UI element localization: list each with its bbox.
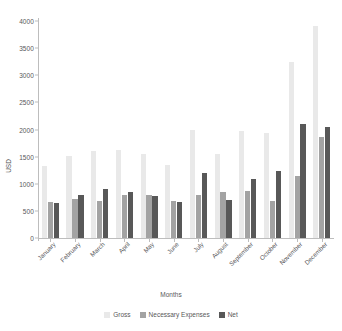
x-tick-label: August (211, 241, 230, 260)
bar-group (137, 21, 162, 238)
bar-group (112, 21, 137, 238)
x-tick-cell: February (63, 239, 88, 289)
y-axis-title: USD (5, 159, 12, 173)
bar (97, 201, 102, 238)
bar (202, 173, 207, 238)
bar (190, 130, 195, 239)
bar-group (285, 21, 310, 238)
bar (196, 195, 201, 238)
plot-area: 05001000150020002500300035004000 (38, 21, 334, 238)
bar (319, 137, 324, 238)
bar (270, 201, 275, 238)
bar (300, 124, 305, 238)
bar-group (38, 21, 63, 238)
x-tick-cell: January (38, 239, 63, 289)
bar-group (211, 21, 236, 238)
bar (146, 195, 151, 238)
x-tick-cell: April (112, 239, 137, 289)
bar (245, 191, 250, 238)
x-tick-cell: May (137, 239, 162, 289)
bar-group (161, 21, 186, 238)
bar-group (235, 21, 260, 238)
bar (215, 154, 220, 238)
bar-group (260, 21, 285, 238)
x-tick-label: February (59, 241, 82, 264)
bar (48, 202, 53, 238)
x-tick-label: July (192, 241, 205, 254)
legend-label: Necessary Expenses (149, 311, 210, 318)
x-axis-title: Months (0, 291, 342, 298)
legend-item[interactable]: Net (219, 311, 238, 318)
bar (66, 156, 71, 238)
x-tick-label: June (165, 241, 180, 256)
bar (103, 189, 108, 238)
legend-label: Net (228, 311, 238, 318)
x-tick-label: April (117, 241, 131, 255)
x-tick-labels: JanuaryFebruaryMarchAprilMayJuneJulyAugu… (38, 239, 334, 289)
legend-swatch-icon (104, 312, 110, 318)
x-tick-label: January (36, 241, 57, 262)
legend-swatch-icon (140, 312, 146, 318)
legend-item[interactable]: Gross (104, 311, 130, 318)
x-tick-cell: June (161, 239, 186, 289)
bar-group (63, 21, 88, 238)
x-tick-cell: March (87, 239, 112, 289)
bar (264, 133, 269, 238)
bar (276, 171, 281, 238)
bar (295, 176, 300, 238)
x-tick-cell: July (186, 239, 211, 289)
bar (141, 154, 146, 238)
legend-swatch-icon (219, 312, 225, 318)
bar (239, 131, 244, 238)
x-tick-label: October (258, 241, 279, 262)
bar (54, 203, 59, 238)
bar (152, 196, 157, 238)
bar (171, 201, 176, 238)
bar (325, 127, 330, 238)
x-tick-cell: December (309, 239, 334, 289)
bar (220, 192, 225, 238)
chart-legend: GrossNecessary ExpensesNet (0, 311, 342, 318)
bar (91, 151, 96, 238)
bar (177, 202, 182, 238)
bar (42, 166, 47, 238)
bar (226, 200, 231, 238)
bar (289, 62, 294, 238)
bar (128, 192, 133, 238)
x-tick-label: March (89, 241, 106, 258)
bar (165, 165, 170, 238)
bar (78, 195, 83, 238)
x-tick-label: May (142, 241, 155, 254)
bar-group (309, 21, 334, 238)
bar-group (186, 21, 211, 238)
bar (116, 150, 121, 238)
legend-item[interactable]: Necessary Expenses (140, 311, 210, 318)
bar (251, 179, 256, 238)
bar-groups (38, 21, 334, 238)
x-tick-cell: September (235, 239, 260, 289)
bar-group (87, 21, 112, 238)
bar (72, 199, 77, 238)
legend-label: Gross (113, 311, 130, 318)
bar (313, 26, 318, 238)
bar (122, 195, 127, 238)
bar-chart: USD 05001000150020002500300035004000 Jan… (0, 0, 342, 331)
